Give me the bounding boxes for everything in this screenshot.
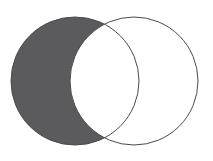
venn-diagram-svg <box>0 0 213 161</box>
venn-circle-right[interactable] <box>70 17 198 145</box>
venn-diagram-canvas <box>0 0 213 161</box>
